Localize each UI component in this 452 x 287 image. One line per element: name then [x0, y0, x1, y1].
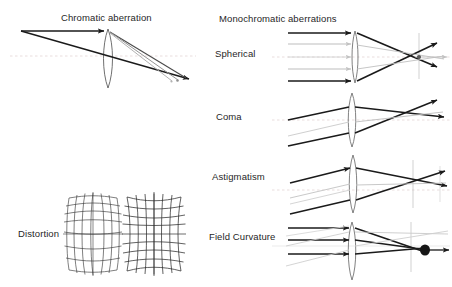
- focus-point-secondary: [176, 79, 179, 82]
- optical-aberrations-figure: [0, 0, 452, 287]
- label-astigmatism: Astigmatism: [212, 171, 265, 182]
- label-spherical: Spherical: [215, 48, 256, 59]
- label-field-curvature: Field Curvature: [209, 231, 275, 242]
- label-distortion: Distortion: [18, 228, 59, 239]
- title-chromatic-aberration: Chromatic aberration: [61, 12, 152, 23]
- curved-focus-blob: [420, 245, 430, 256]
- blur-spot-spherical: [417, 55, 421, 59]
- focus-point-tertiary: [170, 80, 172, 82]
- label-coma: Coma: [216, 111, 242, 122]
- title-monochromatic-aberrations: Monochromatic aberrations: [219, 13, 337, 24]
